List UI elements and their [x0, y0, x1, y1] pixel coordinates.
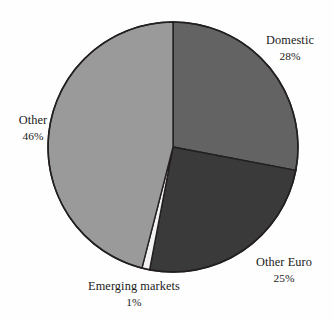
- pie-label-domestic: Domestic 28%: [246, 33, 334, 63]
- pie-label-other-euro-name: Other Euro: [234, 255, 334, 270]
- pie-chart: Domestic 28% Other 46% Other Euro 25% Em…: [0, 0, 334, 321]
- pie-label-other-euro-value: 25%: [234, 272, 334, 285]
- pie-label-emerging-markets-name: Emerging markets: [66, 279, 202, 294]
- pie-label-other-value: 46%: [2, 130, 64, 143]
- pie-label-emerging-markets-value: 1%: [66, 296, 202, 309]
- pie-label-domestic-value: 28%: [246, 50, 334, 63]
- pie-label-other: Other 46%: [2, 113, 64, 143]
- pie-label-other-name: Other: [2, 113, 64, 128]
- pie-label-emerging-markets: Emerging markets 1%: [66, 279, 202, 309]
- pie-label-other-euro: Other Euro 25%: [234, 255, 334, 285]
- pie-slice-other-euro[interactable]: [150, 147, 296, 272]
- pie-label-domestic-name: Domestic: [246, 33, 334, 48]
